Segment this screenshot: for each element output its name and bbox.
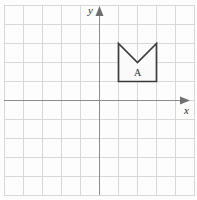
shape-a-label: A	[134, 67, 142, 78]
coordinate-plane-figure: x y A	[0, 0, 197, 200]
x-axis: x	[4, 97, 190, 117]
coordinate-plane-svg: x y A	[0, 0, 197, 200]
y-axis: y	[87, 4, 104, 195]
arrow-up-icon	[96, 6, 104, 16]
x-axis-label: x	[183, 104, 189, 116]
y-axis-label: y	[87, 4, 93, 16]
